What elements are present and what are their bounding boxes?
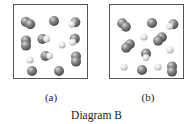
large-atom [153, 36, 163, 46]
large-atom [21, 41, 31, 51]
molecule-diatomic-dark [117, 18, 131, 32]
molecule-single-dark [147, 18, 157, 28]
small-atom [166, 23, 173, 30]
molecule-diatomic-dark-light [166, 19, 178, 29]
molecule-diatomic-dark-light [40, 51, 53, 61]
large-atom [25, 19, 35, 29]
molecule-single-dark [54, 66, 64, 76]
molecule-diatomic-dark-light [69, 34, 79, 46]
molecule-single-dark [49, 16, 59, 26]
large-atom [121, 43, 131, 53]
panel-b-molecules [110, 5, 183, 78]
large-atom [147, 18, 157, 28]
molecule-single-light [58, 41, 65, 48]
large-atom [71, 57, 81, 67]
panel-a-molecules [14, 5, 87, 78]
molecule-diatomic-dark [121, 39, 135, 53]
small-atom [166, 46, 173, 53]
molecule-single-light [166, 46, 173, 53]
small-atom [26, 56, 33, 63]
molecule-diatomic-dark-light [37, 34, 50, 44]
panel-a-label: (a) [36, 91, 66, 103]
molecule-diatomic-dark-light [141, 48, 151, 61]
small-atom [143, 54, 150, 61]
molecule-diatomic-dark [153, 32, 167, 46]
molecule-single-dark [27, 66, 37, 76]
panel-a-box [13, 4, 88, 79]
large-atom [167, 67, 177, 77]
large-atom [121, 22, 131, 32]
panel-b-label: (b) [133, 91, 163, 103]
molecule-single-light [140, 33, 147, 40]
molecule-single-light [26, 56, 33, 63]
molecule-diatomic-dark-light [68, 17, 80, 27]
molecule-single-light [120, 63, 127, 70]
molecule-diatomic-dark [71, 51, 81, 66]
panel-b-box [109, 4, 184, 79]
diagram-caption: Diagram B [0, 109, 193, 122]
large-atom [54, 66, 64, 76]
small-atom [120, 63, 127, 70]
large-atom [27, 66, 37, 76]
molecule-diatomic-dark [21, 35, 31, 50]
small-atom [69, 39, 76, 46]
small-atom [43, 36, 50, 43]
molecule-diatomic-dark [21, 17, 36, 30]
molecule-single-dark [137, 65, 147, 75]
large-atom [49, 16, 59, 26]
molecule-single-light [154, 63, 161, 70]
molecule-diatomic-dark [167, 61, 177, 76]
large-atom [137, 65, 147, 75]
small-atom [68, 21, 75, 28]
small-atom [154, 63, 161, 70]
small-atom [58, 41, 65, 48]
small-atom [46, 53, 53, 60]
small-atom [140, 33, 147, 40]
